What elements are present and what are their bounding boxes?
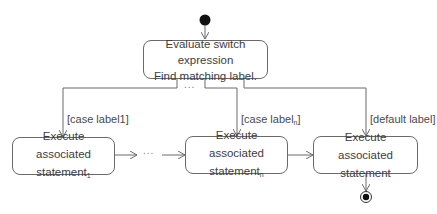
initial-node: [200, 15, 211, 26]
ellipsis-bottom: ...: [143, 145, 154, 156]
guard-default: [default label]: [370, 113, 435, 125]
ellipsis-top: ...: [184, 79, 195, 90]
execute-default-node: Execute associated statement: [313, 136, 418, 174]
evaluate-line1: Evaluate switch expression: [144, 36, 267, 68]
execute-casen-node: Execute associated statementn: [185, 136, 288, 174]
execute-case1-node: Execute associated statement1: [12, 137, 115, 175]
guard-casen: [case labeln]: [241, 113, 301, 126]
evaluate-line2: Find matching label.: [144, 68, 267, 84]
guard-case1: [case label1]: [67, 113, 129, 125]
final-node-dot: [363, 194, 369, 200]
evaluate-switch-node: Evaluate switch expression Find matching…: [143, 40, 268, 79]
